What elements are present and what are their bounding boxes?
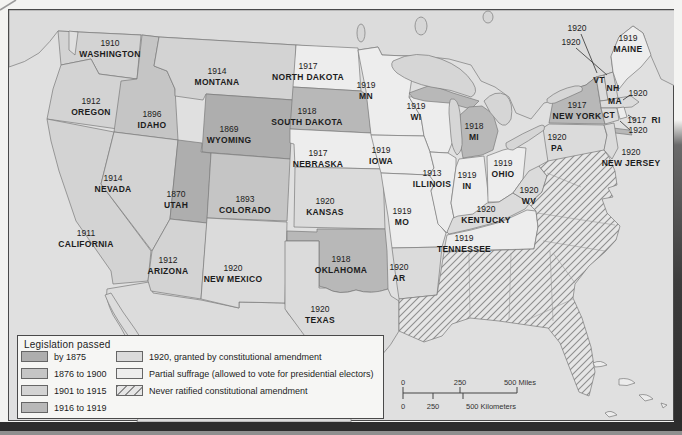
legend-item-never-ratified: Never ratified constitutional amendment (116, 385, 308, 396)
lake-erie (506, 125, 545, 150)
legend-label: Never ratified constitutional amendment (149, 386, 308, 396)
legend-label: Partial suffrage (allowed to vote for pr… (149, 369, 373, 379)
page-bottom-edge (0, 431, 682, 435)
legend-item-by-1875: by 1875 (21, 351, 86, 362)
scale-miles-500: 500 Miles (504, 378, 536, 387)
legend-item-1876-1900: 1876 to 1900 (21, 368, 107, 379)
scale-km-500: 500 Kilometers (466, 402, 516, 411)
page-bottom-shadow (0, 422, 682, 431)
page-corner-mark (0, 0, 20, 12)
page-right-shadow (674, 0, 682, 435)
legend-swatch-1876-1900 (21, 368, 48, 379)
legend-item-1901-1915: 1901 to 1915 (21, 385, 107, 396)
legend-label: 1876 to 1900 (54, 369, 107, 379)
legend-swatch-1901-1915 (21, 385, 48, 396)
legend-item-partial-suffrage: Partial suffrage (allowed to vote for pr… (116, 368, 373, 379)
legend-swatch-partial-suffrage (116, 368, 143, 379)
legend-item-1920-amendment: 1920, granted by constitutional amendmen… (116, 351, 322, 362)
legend-swatch-1920-amendment (116, 351, 143, 362)
legend-item-1916-1919: 1916 to 1919 (21, 402, 107, 413)
scale-miles-250: 250 (454, 378, 467, 387)
scale-km-250: 250 (427, 402, 440, 411)
legend-label: 1901 to 1915 (54, 386, 107, 396)
legend-label: 1916 to 1919 (54, 403, 107, 413)
legend-swatch-1916-1919 (21, 402, 48, 413)
legend-label: 1920, granted by constitutional amendmen… (149, 352, 322, 362)
scale-bar: 0 250 500 Miles 0 250 500 Kilometers (395, 376, 565, 414)
legend-swatch-never-ratified (116, 385, 143, 396)
scale-miles-0: 0 (401, 378, 405, 387)
legend-label: by 1875 (54, 352, 86, 362)
legend-box: Legislation passed by 1875 1876 to 1900 … (17, 335, 384, 419)
scale-km-0: 0 (401, 402, 405, 411)
scanned-map-page: 1910 WASHINGTON 1912 OREGON 1911 CALIFOR… (0, 0, 682, 435)
legend-swatch-by-1875 (21, 351, 48, 362)
islands (593, 361, 667, 417)
legend-title: Legislation passed (24, 339, 110, 350)
